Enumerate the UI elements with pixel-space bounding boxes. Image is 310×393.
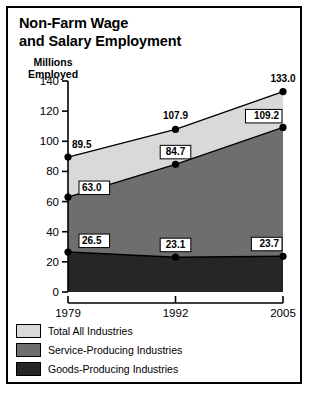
data-label: 23.7: [260, 238, 280, 249]
data-label: 26.5: [82, 235, 102, 246]
data-point: [172, 126, 179, 133]
legend-label-total: Total All Industries: [48, 325, 133, 337]
y-tick-label: 0: [53, 286, 59, 298]
y-tick-label: 100: [40, 135, 59, 147]
y-tick-label: 120: [40, 105, 59, 117]
legend-item-goods: Goods-Producing Industries: [16, 359, 296, 378]
data-point: [64, 193, 71, 200]
data-point: [279, 88, 286, 95]
y-tick-label: 40: [46, 226, 59, 238]
data-point: [64, 154, 71, 161]
chart-card: Non-Farm Wage and Salary Employment Mill…: [6, 6, 302, 384]
data-point: [172, 161, 179, 168]
y-tick-label: 140: [40, 75, 59, 87]
data-label: 84.7: [166, 146, 186, 157]
data-label: 133.0: [270, 73, 295, 84]
data-point: [279, 253, 286, 260]
data-label: 63.0: [82, 182, 102, 193]
data-label: 107.9: [163, 110, 188, 121]
source-note: Source: Bureau of Labor Statistics: [18, 382, 147, 384]
legend-label-service: Service-Producing Industries: [48, 344, 182, 356]
y-tick-label: 80: [46, 165, 59, 177]
legend-item-total: Total All Industries: [16, 321, 296, 340]
chart-legend: Total All Industries Service-Producing I…: [16, 321, 296, 378]
x-tick-labels: 197919922005: [55, 307, 296, 319]
x-tick-label: 1979: [55, 307, 81, 319]
data-label: 23.1: [166, 239, 186, 250]
x-tick-label: 1992: [163, 307, 189, 319]
data-point: [279, 124, 286, 131]
legend-item-service: Service-Producing Industries: [16, 340, 296, 359]
data-label: 89.5: [72, 139, 92, 150]
y-tick-labels: 020406080100120140: [40, 75, 59, 298]
legend-swatch-service: [16, 343, 41, 357]
y-tick-label: 20: [46, 256, 59, 268]
data-point: [172, 254, 179, 261]
legend-swatch-total: [16, 324, 41, 338]
data-point: [64, 248, 71, 255]
y-tick-label: 60: [46, 196, 59, 208]
legend-swatch-goods: [16, 362, 41, 376]
legend-label-goods: Goods-Producing Industries: [48, 363, 178, 375]
data-label: 109.2: [254, 110, 279, 121]
x-tick-label: 2005: [270, 307, 296, 319]
